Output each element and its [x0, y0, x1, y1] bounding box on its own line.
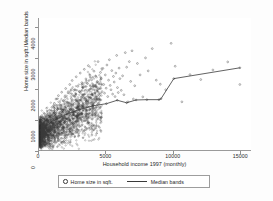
legend-entry-home-size: Home size in sqft. — [63, 179, 113, 185]
y-tick-label: 0 — [30, 151, 36, 184]
x-tick-label: 15000 — [233, 153, 248, 159]
y-tick-label: 1000 — [30, 120, 36, 153]
x-tick-label: 0 — [37, 153, 40, 159]
x-axis-label: Household income 1997 (monthly) — [38, 161, 251, 167]
open-circle-icon — [63, 179, 68, 184]
y-axis-label: Home size in sqft./Median bands — [23, 0, 29, 107]
legend-entry-median-bands: Median bands — [127, 179, 184, 185]
x-tick-label: 5000 — [99, 153, 111, 159]
scatter-points-layer — [39, 42, 241, 149]
y-tick-label: 2000 — [30, 89, 36, 122]
y-tick-label: 3000 — [30, 58, 36, 91]
line-segment-icon — [127, 181, 147, 182]
chart-legend: Home size in sqft. Median bands — [58, 175, 210, 188]
plot-canvas — [39, 18, 252, 151]
x-tick-label: 10000 — [165, 153, 180, 159]
plot-area — [38, 18, 251, 151]
legend-label-median-bands: Median bands — [151, 179, 184, 185]
legend-label-home-size: Home size in sqft. — [71, 179, 113, 185]
scatter-plot-figure: 01000200030004000 Home size in sqft./Med… — [0, 0, 273, 201]
y-tick-label: 4000 — [30, 27, 36, 60]
